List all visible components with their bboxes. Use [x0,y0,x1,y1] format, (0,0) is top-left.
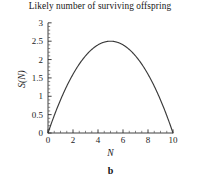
x-axis-tick-label: 2 [71,135,76,145]
y-axis-tick-label: 2.5 [32,36,44,46]
figure-panel-b: Likely number of surviving offspring 024… [0,0,200,182]
x-axis-tick-label: 8 [146,135,151,145]
data-curve [48,41,173,133]
x-axis-tick-label: 0 [46,135,51,145]
y-axis-label: S(N) [2,60,42,100]
y-axis-tick-label: 3 [39,18,44,28]
x-axis-tick-label: 6 [121,135,126,145]
y-axis-label-text: S(N) [17,53,27,105]
x-axis-tick-label: 4 [96,135,101,145]
panel-label: b [48,165,173,176]
x-axis-tick-label: 10 [169,135,179,145]
y-axis-tick-label: 0.5 [32,110,44,120]
x-axis-label: N [48,148,173,158]
y-axis-tick-label: 0 [39,128,44,138]
